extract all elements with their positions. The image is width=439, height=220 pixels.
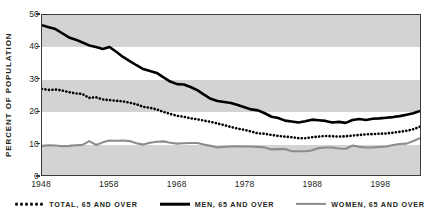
x-tick-label: 1948 xyxy=(31,179,51,189)
x-tick-label: 1968 xyxy=(167,179,187,189)
y-tick-label: 20 xyxy=(5,106,39,116)
y-tick-mark xyxy=(36,46,40,47)
y-tick-mark xyxy=(36,13,40,14)
y-tick-label: 30 xyxy=(5,74,39,84)
x-tick-label: 1978 xyxy=(235,179,255,189)
solid-gray-line-icon xyxy=(296,200,326,208)
y-tick-mark xyxy=(36,143,40,144)
y-tick-label: 10 xyxy=(5,139,39,149)
legend-label: TOTAL, 65 AND OVER xyxy=(49,200,137,209)
solid-black-line-icon xyxy=(160,200,190,208)
legend-item: MEN, 65 AND OVER xyxy=(160,200,275,209)
x-tick-label: 1998 xyxy=(370,179,390,189)
y-tick-label: 40 xyxy=(5,41,39,51)
x-tick-label: 1988 xyxy=(303,179,323,189)
legend-swatch-line xyxy=(160,203,190,206)
series-lines xyxy=(42,15,420,175)
chart-container: PERCENT OF POPULATION 50403020100 TOTAL,… xyxy=(0,0,439,220)
series-line xyxy=(42,25,420,123)
legend-item: WOMEN, 65 AND OVER xyxy=(296,200,425,209)
series-line xyxy=(42,89,420,138)
legend-label: WOMEN, 65 AND OVER xyxy=(331,200,425,209)
y-tick-mark xyxy=(36,78,40,79)
legend-item: TOTAL, 65 AND OVER xyxy=(14,200,137,209)
legend-label: MEN, 65 AND OVER xyxy=(195,200,275,209)
chart-legend: TOTAL, 65 AND OVERMEN, 65 AND OVERWOMEN,… xyxy=(0,196,439,212)
x-tick-label: 1958 xyxy=(99,179,119,189)
legend-swatch-line xyxy=(296,203,326,205)
y-tick-mark xyxy=(36,111,40,112)
dotted-line-icon xyxy=(14,200,44,208)
legend-swatch-line xyxy=(14,203,44,206)
y-tick-mark xyxy=(36,175,40,176)
plot-area xyxy=(41,14,421,176)
series-line xyxy=(42,138,420,151)
y-tick-label: 50 xyxy=(5,9,39,19)
